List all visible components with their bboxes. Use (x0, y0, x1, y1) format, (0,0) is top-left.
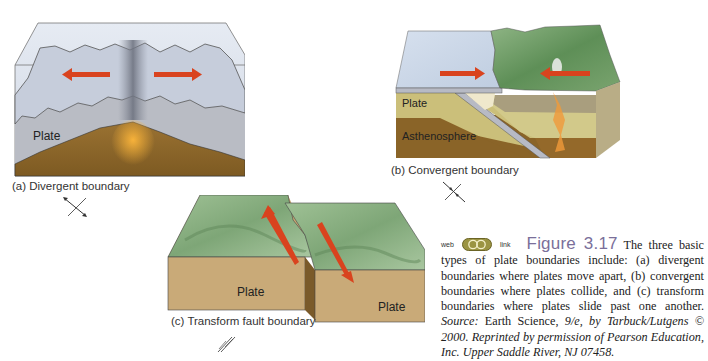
divergent-boundary-illustration (0, 0, 245, 190)
panel-c-plate-label-left: Plate (237, 285, 264, 299)
transform-boundary-diagram: Plate Plate (165, 195, 425, 325)
web-link-icon[interactable] (462, 238, 492, 251)
source-text: Earth Science, (478, 314, 564, 328)
panel-a-plate-label: Plate (33, 129, 60, 143)
panel-a-caption: (a) Divergent boundary (12, 180, 130, 192)
divergent-symbol-icon (62, 196, 88, 218)
link-label: link (500, 241, 511, 248)
divergent-boundary-diagram: Plate (a) Divergent boundary (0, 0, 245, 190)
panel-b-plate-label: Plate (402, 97, 427, 109)
convergent-symbol-icon (441, 180, 467, 204)
panel-c-caption: (c) Transform fault boundary (171, 315, 315, 327)
transform-symbol-icon (216, 335, 236, 353)
panel-b-asthenosphere-label: Asthenosphere (402, 130, 476, 142)
source-label: Source: (441, 314, 478, 328)
web-label: web (441, 241, 454, 248)
convergent-boundary-diagram: Plate Asthenosphere (385, 20, 625, 180)
panel-b-caption: (b) Convergent boundary (391, 164, 519, 176)
figure-number: Figure 3.17 (527, 234, 618, 253)
panel-c-plate-label-right: Plate (378, 300, 405, 314)
figure-caption: web link Figure 3.17 The three basic typ… (441, 236, 704, 360)
